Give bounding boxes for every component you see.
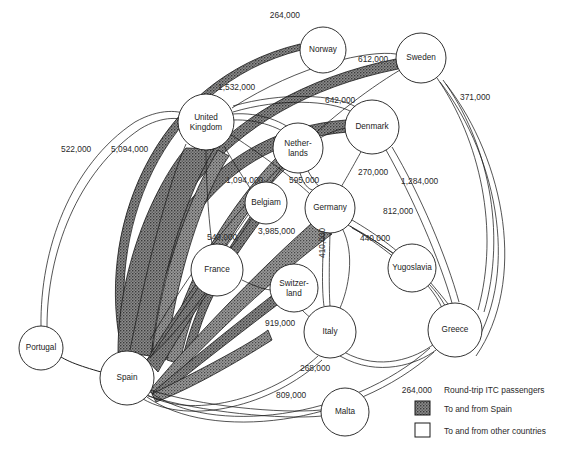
edge-label-netherlands_germany: 270,000 <box>358 167 389 177</box>
node-portugal[interactable]: Portugal <box>19 326 63 370</box>
node-sweden[interactable]: Sweden <box>396 33 446 83</box>
link-sweden-greece-a <box>437 78 487 310</box>
node-denmark[interactable]: Denmark <box>345 100 399 154</box>
edge-label-spain_uk: 5,094,000 <box>111 144 149 154</box>
node-belgium[interactable]: Belgiam <box>245 182 287 224</box>
node-yugoslavia[interactable]: Yugoslavia <box>388 244 436 292</box>
node-united_kingdom[interactable]: UnitedKingdom <box>178 94 234 150</box>
edge-label-portugal_uk: 522,000 <box>61 144 92 154</box>
edge-label-netherlands_spain: 595,000 <box>289 175 320 185</box>
node-label: Switzer- <box>279 279 309 288</box>
legend-sample-value: 264,000 <box>402 385 433 395</box>
node-label: Portugal <box>26 343 57 352</box>
edge-label-spain_norway: 264,000 <box>270 10 301 20</box>
legend-swatch-spain <box>415 401 430 415</box>
node-label: Norway <box>309 45 338 54</box>
edge-label-denmark_greece: 1,284,000 <box>401 176 439 186</box>
node-spain[interactable]: Spain <box>100 351 154 405</box>
link-germany-italy-alt <box>340 228 350 308</box>
network-diagram: NorwaySwedenUnitedKingdomDenmarkNether-l… <box>0 0 574 454</box>
edge-label-uk_netherlands: 1,094,000 <box>226 175 264 185</box>
legend-swatch-other <box>415 423 430 437</box>
node-greece[interactable]: Greece <box>428 303 482 357</box>
legend-label-other: To and from other countries <box>444 426 546 436</box>
node-label: France <box>204 265 230 274</box>
edge-label-switzerland_spain: 919,000 <box>265 318 296 328</box>
edge-label-belgium_france: 540,000 <box>207 232 238 242</box>
link-germany-italy-b <box>329 233 330 306</box>
edge-label-spain_denmark: 642,000 <box>325 95 356 105</box>
node-france[interactable]: France <box>191 244 243 296</box>
node-label-line2: land <box>286 289 302 298</box>
edge-label-germany_spain: 3,985,000 <box>258 226 296 236</box>
node-italy[interactable]: Italy <box>304 306 356 358</box>
node-label: Denmark <box>355 122 389 131</box>
node-norway[interactable]: Norway <box>300 27 346 73</box>
node-germany[interactable]: Germany <box>305 183 355 233</box>
edge-label-germany_yugoslavia: 812,000 <box>383 206 414 216</box>
legend-label-spain: To and from Spain <box>444 404 512 414</box>
node-label: Spain <box>117 373 138 382</box>
link-italy-greece-b <box>340 350 436 367</box>
figure-canvas: NorwaySwedenUnitedKingdomDenmarkNether-l… <box>0 0 574 454</box>
edge-label-sweden_greece: 371,000 <box>460 92 491 102</box>
link-sweden-greece-b <box>443 80 494 312</box>
edge-label-uk_elsewhere: 1,532,000 <box>218 82 256 92</box>
legend-sample-caption: Round-trip ITC passengers <box>444 385 545 395</box>
node-label: Belgiam <box>251 198 281 207</box>
node-label: Germany <box>313 203 348 212</box>
node-label-line2: Kingdom <box>190 123 222 132</box>
node-label: Italy <box>322 327 338 336</box>
edge-label-italy_greece: 268,000 <box>300 363 331 373</box>
legend: 264,000 Round-trip ITC passengers To and… <box>402 385 546 437</box>
node-label-line2: lands <box>288 149 308 158</box>
node-label: United <box>194 113 218 122</box>
edge-label-spain_sweden: 612,000 <box>358 54 389 64</box>
node-label: Nether- <box>284 139 312 148</box>
edge-label-germany_italy: 410,000 <box>317 227 327 258</box>
node-label: Greece <box>442 325 469 334</box>
node-switzerland[interactable]: Switzer-land <box>270 264 318 312</box>
node-netherlands[interactable]: Nether-lands <box>273 123 323 173</box>
node-label: Malta <box>335 407 355 416</box>
edge-label-germany_italy_alt: 440,000 <box>360 233 391 243</box>
edge-label-spain_malta: 809,000 <box>276 390 307 400</box>
node-label: Yugoslavia <box>392 263 432 272</box>
node-label: Sweden <box>406 53 436 62</box>
node-malta[interactable]: Malta <box>321 388 369 436</box>
